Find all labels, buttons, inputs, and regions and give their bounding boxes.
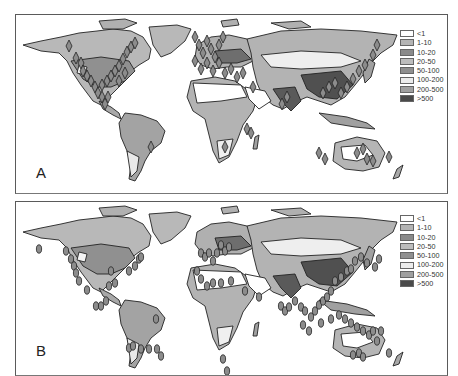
legend-label: 50-100	[417, 66, 439, 76]
ellipse-marker-icon	[158, 352, 163, 360]
legend-row: >500	[400, 94, 443, 103]
ellipse-marker-icon	[132, 262, 137, 270]
legend-a: <11-1010-2020-5050-100100-200200-500>500	[400, 29, 443, 103]
legend-swatch	[400, 243, 414, 250]
panel-label-b: B	[36, 342, 46, 359]
land-region	[99, 19, 137, 29]
ellipse-marker-icon	[220, 355, 225, 363]
legend-swatch	[400, 86, 414, 93]
land-region	[217, 326, 233, 346]
legend-row: 20-50	[400, 242, 443, 251]
legend-swatch	[400, 224, 414, 231]
ellipse-marker-icon	[328, 287, 333, 295]
ellipse-marker-icon	[108, 267, 113, 275]
diamond-marker-icon	[240, 67, 246, 79]
legend-swatch	[400, 39, 414, 46]
ellipse-marker-icon	[292, 297, 297, 305]
legend-swatch	[400, 58, 414, 65]
ellipse-marker-icon	[103, 297, 108, 305]
legend-label: 200-500	[417, 85, 443, 95]
legend-row: >500	[400, 279, 443, 288]
legend-label: 10-20	[417, 233, 435, 243]
ellipse-marker-icon	[106, 282, 111, 290]
land-region	[253, 322, 259, 336]
land-region	[319, 113, 375, 129]
ellipse-marker-icon	[112, 279, 117, 287]
legend-row: 1-10	[400, 223, 443, 232]
panel-label-a: A	[36, 164, 46, 181]
ellipse-marker-icon	[126, 267, 131, 275]
legend-swatch	[400, 77, 414, 84]
ellipse-marker-icon	[146, 345, 151, 353]
land-region	[221, 206, 239, 214]
ellipse-marker-icon	[332, 277, 337, 285]
ellipse-marker-icon	[300, 321, 305, 329]
ellipse-marker-icon	[206, 249, 211, 257]
ellipse-marker-icon	[154, 345, 159, 353]
legend-swatch	[400, 67, 414, 74]
ellipse-marker-icon	[328, 315, 333, 323]
ellipse-marker-icon	[360, 327, 365, 335]
ellipse-marker-icon	[286, 303, 291, 311]
land-region	[393, 352, 403, 366]
ellipse-marker-icon	[210, 257, 215, 265]
legend-swatch	[400, 49, 414, 56]
ellipse-marker-icon	[348, 319, 353, 327]
ellipse-marker-icon	[354, 323, 359, 331]
ellipse-marker-icon	[348, 265, 353, 273]
ellipse-marker-icon	[256, 293, 261, 301]
ellipse-marker-icon	[130, 342, 135, 350]
land-region	[271, 21, 311, 29]
ellipse-marker-icon	[138, 253, 143, 261]
land-region	[149, 25, 191, 57]
land-region	[99, 206, 137, 216]
ellipse-marker-icon	[98, 302, 103, 310]
legend-row: 1-10	[400, 38, 443, 47]
legend-label: >500	[417, 94, 433, 104]
legend-label: 10-20	[417, 48, 435, 58]
ellipse-marker-icon	[302, 307, 307, 315]
legend-row: 50-100	[400, 66, 443, 75]
diamond-marker-icon	[322, 153, 328, 165]
legend-row: 200-500	[400, 85, 443, 94]
ellipse-marker-icon	[218, 279, 223, 287]
ellipse-marker-icon	[76, 277, 81, 285]
legend-label: <1	[417, 214, 425, 224]
ellipse-marker-icon	[84, 286, 89, 294]
diamond-marker-icon	[386, 151, 392, 163]
ellipse-marker-icon	[210, 279, 215, 287]
land-region	[149, 212, 191, 244]
ellipse-marker-icon	[350, 351, 355, 359]
legend-label: 20-50	[417, 57, 435, 67]
legend-swatch	[400, 271, 414, 278]
ellipse-marker-icon	[214, 249, 219, 257]
map-panel-b: B <11-1010-2020-5050-100100-200200-500>5…	[15, 201, 448, 376]
legend-label: 20-50	[417, 242, 435, 252]
legend-row: 20-50	[400, 57, 443, 66]
land-region	[271, 208, 311, 216]
land-region	[319, 300, 375, 316]
ellipse-marker-icon	[358, 253, 363, 261]
ellipse-marker-icon	[242, 287, 247, 295]
ellipse-marker-icon	[374, 337, 379, 345]
ellipse-marker-icon	[376, 255, 381, 263]
ellipse-marker-icon	[342, 315, 347, 323]
world-map-b	[16, 202, 448, 376]
diamond-marker-icon	[316, 147, 322, 159]
legend-label: 1-10	[417, 223, 431, 233]
land-region	[221, 19, 239, 27]
ellipse-marker-icon	[228, 277, 233, 285]
ellipse-marker-icon	[352, 257, 357, 265]
ellipse-marker-icon	[386, 349, 391, 357]
legend-row: <1	[400, 29, 443, 38]
ellipse-marker-icon	[153, 315, 158, 323]
land-region	[253, 135, 259, 149]
ellipse-marker-icon	[194, 267, 199, 275]
ellipse-marker-icon	[360, 353, 365, 361]
legend-label: 50-100	[417, 251, 439, 261]
ellipse-marker-icon	[378, 327, 383, 335]
ellipse-marker-icon	[204, 282, 209, 290]
world-map-a	[16, 15, 448, 194]
ellipse-marker-icon	[364, 259, 369, 267]
ellipse-marker-icon	[372, 263, 377, 271]
